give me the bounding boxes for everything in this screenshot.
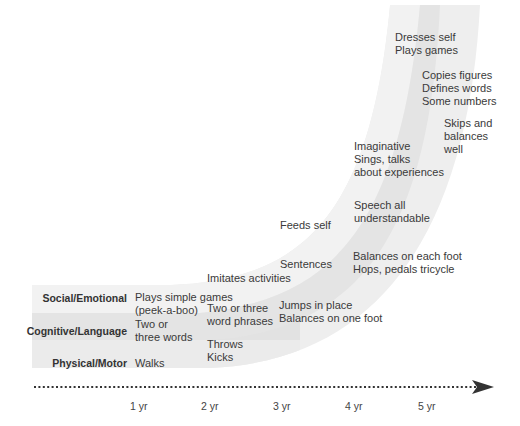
milestone: Sentences [280, 258, 332, 271]
milestone: Walks [135, 357, 165, 370]
milestone: Feeds self [280, 219, 331, 232]
milestone: ImaginativeSings, talksabout experiences [354, 140, 444, 179]
row-label-cognitive: Cognitive/Language [2, 325, 127, 337]
milestone: Speech allunderstandable [354, 199, 430, 225]
axis-tick-3yr: 3 yr [273, 400, 291, 412]
axis-tick-5yr: 5 yr [418, 400, 436, 412]
milestone: Balances on each footHops, pedals tricyc… [353, 250, 462, 276]
milestone: Two orthree words [135, 318, 192, 344]
milestone: Two or threeword phrases [207, 302, 273, 328]
axis-tick-4yr: 4 yr [345, 400, 363, 412]
row-label-social: Social/Emotional [2, 292, 127, 304]
milestone: Dresses selfPlays games [395, 31, 458, 57]
axis-tick-2yr: 2 yr [201, 400, 219, 412]
milestone: Jumps in placeBalances on one foot [279, 299, 382, 325]
axis-tick-1yr: 1 yr [130, 400, 148, 412]
milestone: Skips andbalanceswell [444, 117, 492, 156]
milestone: ThrowsKicks [207, 338, 243, 364]
milestone: Imitates activities [207, 272, 291, 285]
row-label-physical: Physical/Motor [2, 357, 127, 369]
milestone: Copies figuresDefines wordsSome numbers [422, 69, 497, 108]
